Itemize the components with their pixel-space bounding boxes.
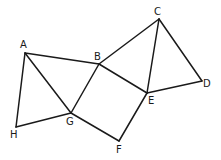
edge-ab [25,53,99,64]
geometry-diagram: A B C D E F G H [0,0,221,160]
vertex-label-f: F [116,144,122,155]
edge-bc [99,19,159,64]
edge-cd [159,19,202,81]
edges-group [16,19,202,141]
vertex-label-e: E [148,95,154,106]
vertex-label-g: G [66,116,74,127]
vertex-label-h: H [10,129,18,140]
labels-group: A B C D E F G H [10,6,211,155]
vertex-label-d: D [203,78,211,89]
edge-ce [147,19,159,93]
vertex-label-a: A [20,39,27,50]
edge-fg [71,113,119,141]
edge-be [99,64,147,93]
edge-gb [71,64,99,113]
edge-ef [119,93,147,141]
edge-ah [16,53,25,127]
vertex-label-b: B [94,51,101,62]
diagram-canvas: A B C D E F G H [0,0,221,160]
edge-ag [25,53,71,113]
edge-hg [16,113,71,127]
vertex-label-c: C [154,6,161,17]
edge-de [147,81,202,93]
